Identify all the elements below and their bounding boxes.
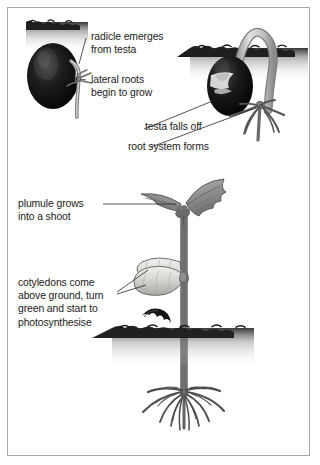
label-cotyledons: cotyledons come above ground, turn green… xyxy=(18,276,103,329)
label-root-system-forms: root system forms xyxy=(128,140,209,153)
soil-line-stage-three xyxy=(92,325,254,368)
label-testa-falls-off: testa falls off xyxy=(145,120,202,133)
discarded-testa-stage-three xyxy=(140,308,171,323)
label-plumule-grows: plumule grows into a shoot xyxy=(18,197,84,223)
root-system-stage-three xyxy=(143,387,224,430)
label-lateral-roots: lateral roots begin to grow xyxy=(91,73,152,99)
label-radicle-emerges: radicle emerges from testa xyxy=(91,30,163,56)
stage-three-seedling-group xyxy=(92,179,254,430)
leaves-stage-three xyxy=(141,179,226,225)
germination-diagram-frame: radicle emerges from testa lateral roots… xyxy=(7,7,310,456)
germination-illustration xyxy=(8,8,310,456)
stage-one-seed-group xyxy=(26,20,92,117)
